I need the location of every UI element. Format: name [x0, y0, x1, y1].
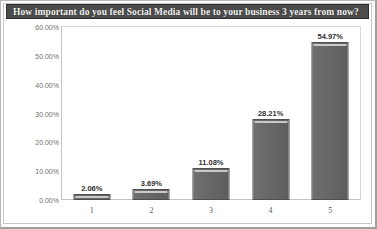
y-axis-tick-label: 50.00%	[7, 52, 59, 59]
x-axis-tick-label: 3	[209, 206, 213, 215]
bar-slot: 28.21%	[241, 27, 301, 200]
page-title: How important do you feel Social Media w…	[7, 7, 359, 17]
y-axis-tick-label: 30.00%	[7, 110, 59, 117]
chart-title-banner: How important do you feel Social Media w…	[6, 4, 369, 19]
bar-highlight	[194, 170, 227, 172]
bar[interactable]: 11.08%	[192, 168, 229, 200]
bar[interactable]: 2.06%	[73, 194, 110, 200]
bar-value-label: 11.08%	[198, 158, 223, 167]
bar-value-label: 2.06%	[81, 184, 102, 193]
bar-value-label: 54.97%	[317, 32, 342, 41]
bar-value-label: 28.21%	[258, 109, 283, 118]
x-axis-tick-label: 5	[328, 206, 332, 215]
x-axis-tick-label: 2	[149, 206, 153, 215]
x-axis-tick-labels: 12345	[62, 204, 360, 220]
y-axis-tick-label: 20.00%	[7, 139, 59, 146]
y-axis-tick-label: 0.00%	[7, 197, 59, 204]
bar[interactable]: 28.21%	[252, 119, 289, 200]
y-axis-tick-label: 40.00%	[7, 81, 59, 88]
plot-region: 0.00%10.00%20.00%30.00%40.00%50.00%60.00…	[25, 22, 365, 208]
bar-slot: 3.69%	[122, 27, 182, 200]
bar-slot: 2.06%	[62, 27, 122, 200]
y-axis-tick-label: 10.00%	[7, 168, 59, 175]
bar-highlight	[314, 44, 347, 46]
bar-highlight	[254, 121, 287, 123]
bar-value-label: 3.69%	[141, 179, 162, 188]
bar-slot: 54.97%	[300, 27, 360, 200]
chart-frame: How important do you feel Social Media w…	[0, 0, 377, 229]
bar-highlight	[75, 196, 108, 198]
bar-slot: 11.08%	[181, 27, 241, 200]
bar-highlight	[135, 191, 168, 193]
x-axis-tick-label: 4	[269, 206, 273, 215]
bar-series: 2.06%3.69%11.08%28.21%54.97%	[62, 27, 360, 200]
bar[interactable]: 3.69%	[133, 189, 170, 200]
y-axis-tick-label: 60.00%	[7, 24, 59, 31]
bar[interactable]: 54.97%	[312, 42, 349, 200]
x-axis-tick-label: 1	[90, 206, 94, 215]
